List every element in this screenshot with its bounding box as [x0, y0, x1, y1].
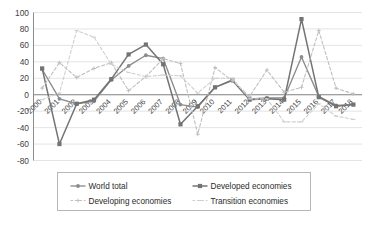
y-axis-tick-label: -40: [17, 123, 29, 133]
legend-label: World total: [89, 182, 128, 191]
data-point-marker: [334, 104, 338, 108]
data-point-marker: [317, 95, 321, 99]
data-point-marker: [144, 42, 148, 46]
y-axis-tick-label: 20: [20, 73, 30, 83]
data-point-marker: [196, 132, 200, 136]
legend-label: Developed economies: [211, 182, 292, 191]
data-point-marker: [351, 102, 355, 106]
legend-item-developing-economies[interactable]: Developing economies: [71, 197, 172, 206]
y-axis-tick-label: -80: [17, 156, 29, 166]
data-point-marker: [40, 66, 44, 70]
data-point-marker: [299, 17, 303, 21]
series-developed-economies: [40, 17, 355, 146]
legend-item-developed-economies[interactable]: Developed economies: [193, 182, 292, 191]
data-point-marker: [92, 98, 96, 102]
x-axis-tick-label: 2016: [302, 97, 320, 115]
line-chart: 100806040200-20-40-60-802000200120022003…: [0, 0, 368, 229]
x-axis-tick-label: 2015: [285, 97, 303, 115]
x-axis-tick-label: 2004: [94, 97, 112, 115]
y-axis-tick-label: 40: [20, 57, 30, 67]
x-axis-tick-label: 2010: [198, 97, 216, 115]
series-line: [42, 19, 353, 144]
x-axis-tick-label: 2006: [129, 97, 147, 115]
data-point-marker: [351, 92, 355, 96]
data-point-marker: [144, 53, 148, 57]
x-axis-tick-label: 2005: [112, 97, 130, 115]
y-axis-tick-label: -60: [17, 139, 29, 149]
data-point-marker: [196, 104, 200, 108]
data-point-marker: [334, 86, 338, 90]
data-point-marker: [75, 102, 79, 106]
data-point-marker: [178, 122, 182, 126]
series-developing-economies: [40, 29, 355, 137]
data-point-marker: [179, 103, 183, 107]
legend-label: Developing economies: [89, 197, 172, 206]
data-point-marker: [299, 85, 303, 89]
data-point-marker: [92, 66, 96, 70]
data-point-marker: [57, 142, 61, 146]
data-point-marker: [109, 77, 113, 81]
legend-swatch-marker: [198, 184, 202, 188]
legend-label: Transition economies: [211, 197, 289, 206]
data-point-marker: [282, 98, 286, 102]
y-gridlines: [34, 13, 363, 161]
x-axis-tick-label: 2011: [216, 97, 234, 115]
chart-legend: World totalDeveloped economiesDeveloping…: [58, 173, 311, 211]
y-axis-tick-label: 60: [20, 40, 30, 50]
data-point-marker: [161, 62, 165, 66]
x-axis-tick-label: 2007: [146, 97, 164, 115]
legend-item-world-total[interactable]: World total: [71, 182, 128, 191]
legend-swatch-marker: [76, 199, 80, 203]
data-point-marker: [126, 52, 130, 56]
y-axis-tick-label: 80: [20, 24, 30, 34]
series-line: [42, 31, 353, 135]
data-point-marker: [127, 64, 131, 68]
chart-container: 100806040200-20-40-60-802000200120022003…: [0, 0, 368, 229]
data-point-marker: [58, 97, 62, 101]
legend-item-transition-economies[interactable]: Transition economies: [193, 197, 289, 206]
data-point-marker: [300, 55, 304, 59]
data-point-marker: [213, 85, 217, 89]
y-axis-tick-label: 100: [15, 8, 29, 18]
legend-swatch-marker: [76, 184, 80, 188]
y-axis-tick-label: 0: [24, 90, 29, 100]
